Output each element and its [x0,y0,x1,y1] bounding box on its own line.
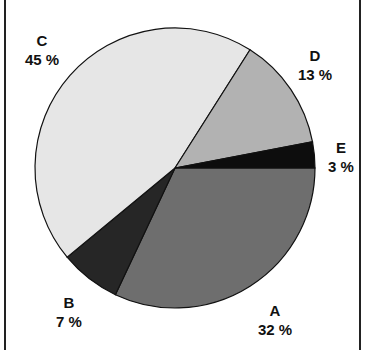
label-a: A 32 % [250,301,300,339]
label-e: E 3 % [316,138,366,176]
label-c: C 45 % [17,31,67,69]
label-d: D 13 % [290,46,340,84]
label-b: B 7 % [44,293,94,331]
